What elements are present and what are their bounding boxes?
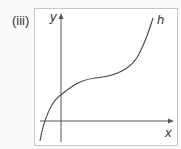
y-axis — [59, 13, 64, 142]
y-axis-label: y — [49, 9, 58, 24]
curve-h — [40, 18, 153, 141]
x-axis — [40, 119, 174, 124]
x-axis-label: x — [164, 125, 172, 140]
curve-label-h: h — [157, 12, 164, 27]
graph: y x h — [0, 0, 181, 149]
